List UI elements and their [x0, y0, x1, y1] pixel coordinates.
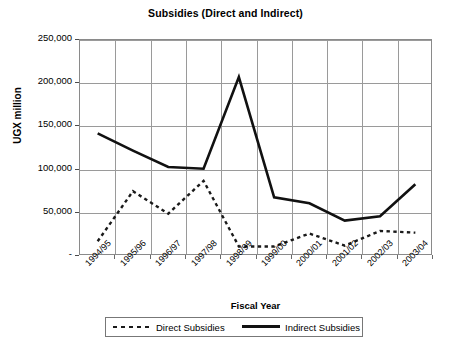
- y-axis-tick-label: 250,000: [14, 32, 72, 43]
- x-axis-tick-mark: [432, 255, 433, 259]
- x-axis-tick-mark: [326, 255, 327, 259]
- y-axis-tick-label: 200,000: [14, 75, 72, 86]
- y-axis-tick-mark: [75, 255, 79, 256]
- dashed-line-swatch-icon: [113, 323, 151, 331]
- y-axis-tick-label: 50,000: [14, 205, 72, 216]
- solid-line-swatch-icon: [242, 323, 280, 331]
- x-axis-tick-mark: [114, 255, 115, 259]
- x-axis-tick-mark: [361, 255, 362, 259]
- legend-item-indirect-subsidies: Indirect Subsidies: [242, 318, 360, 336]
- y-axis-tick-label: -: [14, 248, 72, 259]
- chart-figure: Subsidies (Direct and Indirect) UGX mill…: [0, 0, 451, 357]
- y-axis-tick-label: 150,000: [14, 118, 72, 129]
- plot-area: [79, 39, 432, 255]
- x-axis-tick-mark: [220, 255, 221, 259]
- x-axis-tick-mark: [185, 255, 186, 259]
- chart-legend: Direct Subsidies Indirect Subsidies: [105, 317, 363, 337]
- x-axis-tick-mark: [291, 255, 292, 259]
- legend-label-direct: Direct Subsidies: [156, 322, 225, 333]
- legend-label-indirect: Indirect Subsidies: [285, 322, 360, 333]
- x-axis-title: Fiscal Year: [79, 300, 432, 311]
- x-axis-tick-mark: [150, 255, 151, 259]
- series-line-direct-subsidies: [98, 181, 416, 247]
- x-axis-tick-mark: [256, 255, 257, 259]
- series-layer: [80, 40, 433, 256]
- y-axis-tick-label: 100,000: [14, 162, 72, 173]
- legend-item-direct-subsidies: Direct Subsidies: [113, 318, 225, 336]
- x-axis-tick-mark: [397, 255, 398, 259]
